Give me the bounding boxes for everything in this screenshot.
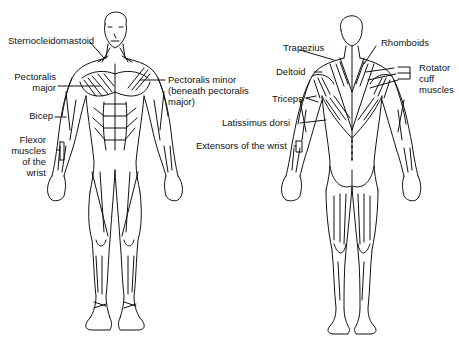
label-extensors-of-wrist: Extensors of the wrist — [196, 141, 287, 152]
label-latissimus-dorsi: Latissimus dorsi — [222, 118, 290, 129]
label-deltoid: Deltoid — [276, 67, 306, 78]
front-figure — [48, 12, 183, 330]
label-rotator-cuff-line2: cuff — [419, 74, 434, 85]
label-sternocleidomastoid: Sternocleidomastoid — [8, 36, 94, 47]
label-flexor-line1: Flexor — [4, 135, 46, 146]
label-pectoralis-minor-line1: Pectoralis minor — [168, 75, 236, 86]
label-pectoralis-major-line1: Pectoralis — [8, 72, 56, 83]
label-rotator-cuff-line3: muscles — [419, 85, 454, 96]
label-trapezius: Trapezius — [283, 43, 324, 54]
label-pectoralis-minor-line3: major) — [168, 97, 195, 108]
label-bicep: Bicep — [8, 111, 53, 122]
back-figure — [282, 16, 421, 334]
label-rotator-cuff-line1: Rotator — [419, 63, 450, 74]
label-flexor-line2: muscles — [4, 146, 46, 157]
muscle-diagram: Sternocleidomastoid Pectoralis major Pec… — [0, 0, 459, 337]
label-pectoralis-major-line2: major — [8, 83, 56, 94]
label-pectoralis-minor-line2: (beneath pectoralis — [168, 86, 249, 97]
label-flexor-line3: of the — [4, 157, 46, 168]
label-flexor-line4: wrist — [4, 168, 46, 179]
label-rhomboids: Rhomboids — [381, 38, 429, 49]
label-triceps: Triceps — [272, 94, 303, 105]
body-figures — [0, 0, 459, 337]
